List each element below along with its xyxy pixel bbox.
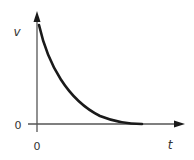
x-origin-label: 0 <box>34 140 41 153</box>
y-axis-label: v <box>13 25 21 39</box>
velocity-time-graph: v t 0 0 <box>0 0 194 160</box>
x-axis-arrow-icon <box>174 121 185 128</box>
decay-curve <box>39 25 142 124</box>
y-origin-label: 0 <box>15 119 22 132</box>
x-axis-label: t <box>168 138 174 152</box>
y-axis-arrow-icon <box>34 11 41 22</box>
